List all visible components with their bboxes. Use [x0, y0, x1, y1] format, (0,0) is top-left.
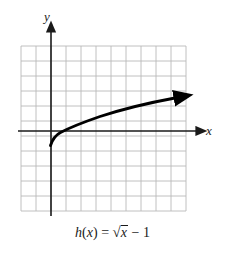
grid-lines [21, 46, 186, 211]
figure-container: y x h(x) = √x − 1 [0, 0, 225, 255]
caption-equals: = [101, 225, 109, 240]
caption-radical: √x [113, 224, 128, 241]
caption-minus: − [132, 225, 140, 240]
caption-radicand: x [121, 225, 128, 241]
figure-caption: h(x) = √x − 1 [0, 224, 225, 241]
y-axis-label: y [44, 10, 50, 23]
x-axis-label: x [206, 124, 212, 137]
radical-sign-icon: √ [113, 225, 121, 240]
caption-constant: 1 [143, 225, 150, 240]
caption-close-paren: ) [93, 225, 98, 240]
graph-canvas [0, 0, 225, 255]
